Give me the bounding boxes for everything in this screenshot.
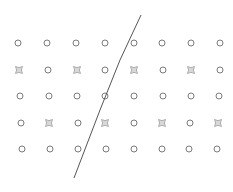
star-marker-icon xyxy=(159,120,166,127)
circle-marker xyxy=(159,40,165,46)
circle-marker xyxy=(131,93,137,99)
circle-marker xyxy=(159,146,165,152)
circle-marker xyxy=(214,146,220,152)
point-grid-diagram xyxy=(0,0,233,192)
circle-marker xyxy=(187,120,193,126)
circle-marker xyxy=(103,146,109,152)
circle-marker xyxy=(131,40,137,46)
circle-marker xyxy=(102,40,108,46)
star-marker-icon xyxy=(215,120,222,127)
star-marker-icon xyxy=(131,67,138,74)
circle-marker xyxy=(17,93,23,99)
star-marker-icon xyxy=(74,67,81,74)
circle-marker xyxy=(45,67,51,73)
diagram-canvas xyxy=(0,0,233,192)
circle-marker xyxy=(102,67,108,73)
circle-marker xyxy=(186,146,192,152)
circle-marker xyxy=(74,93,80,99)
circle-marker xyxy=(47,146,53,152)
circle-marker xyxy=(217,67,223,73)
circle-marker xyxy=(188,40,194,46)
circle-marker xyxy=(75,146,81,152)
star-marker-icon xyxy=(46,120,53,127)
circle-marker xyxy=(131,120,137,126)
circle-marker xyxy=(216,93,222,99)
circle-marker xyxy=(19,146,25,152)
star-marker-icon xyxy=(102,120,109,127)
circle-marker xyxy=(44,40,50,46)
circle-marker xyxy=(18,120,24,126)
circle-marker xyxy=(217,40,223,46)
circle-marker xyxy=(131,146,137,152)
star-marker-icon xyxy=(16,67,23,74)
circle-marker xyxy=(188,93,194,99)
circle-marker xyxy=(15,40,21,46)
circle-marker xyxy=(73,40,79,46)
circle-marker xyxy=(46,93,52,99)
circle-marker xyxy=(75,120,81,126)
circle-marker xyxy=(160,93,166,99)
circle-marker xyxy=(160,67,166,73)
star-marker-icon xyxy=(188,67,195,74)
